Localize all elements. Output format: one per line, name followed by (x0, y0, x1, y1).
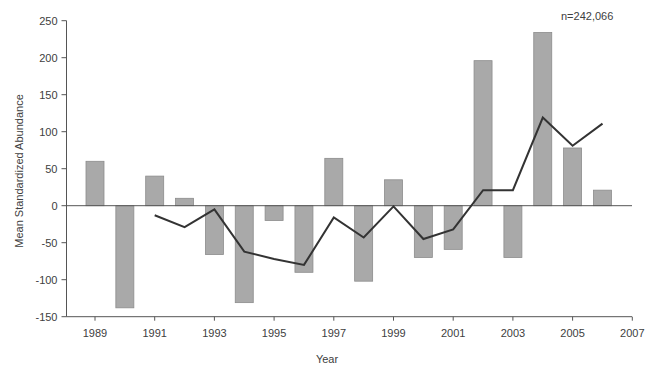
y-tick-label: 150 (39, 89, 57, 101)
bar-2005 (564, 148, 582, 206)
bar-2006 (593, 190, 611, 206)
bar-1990 (116, 206, 134, 308)
sample-size-annotation: n=242,066 (561, 10, 613, 22)
y-tick-label: 0 (51, 200, 57, 212)
bar-1998 (355, 206, 373, 281)
x-tick-label: 1995 (262, 327, 286, 339)
bar-1996 (295, 206, 313, 273)
y-tick-label: -100 (35, 274, 57, 286)
x-tick-label: 1989 (83, 327, 107, 339)
bar-2002 (474, 61, 492, 206)
bar-2003 (504, 206, 522, 258)
bar-line-chart: 250200150100500-50-100-15019891991199319… (0, 0, 656, 377)
bar-1991 (146, 176, 164, 206)
x-tick-label: 2005 (560, 327, 584, 339)
x-tick-label: 2007 (620, 327, 644, 339)
y-tick-label: -50 (42, 237, 58, 249)
x-tick-label: 1991 (142, 327, 166, 339)
y-tick-label: -150 (35, 311, 57, 323)
x-tick-label: 2003 (501, 327, 525, 339)
y-axis-title: Mean Standardized Abundance (13, 94, 25, 248)
bar-series (86, 33, 611, 308)
bar-1999 (385, 180, 403, 206)
y-tick-label: 100 (39, 126, 57, 138)
x-tick-label: 2001 (441, 327, 465, 339)
y-tick-label: 200 (39, 52, 57, 64)
bar-1992 (176, 198, 194, 205)
bar-1989 (86, 161, 104, 205)
y-tick-label: 50 (45, 163, 57, 175)
x-tick-label: 1993 (202, 327, 226, 339)
x-tick-label: 1999 (381, 327, 405, 339)
bar-1995 (265, 206, 283, 221)
x-tick-label: 1997 (322, 327, 346, 339)
bar-2001 (444, 206, 462, 250)
bar-1997 (325, 158, 343, 205)
y-tick-label: 250 (39, 15, 57, 27)
x-axis-title: Year (316, 353, 339, 365)
